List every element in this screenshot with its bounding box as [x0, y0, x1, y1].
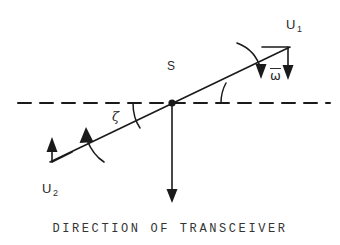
label-omega-bar: ω: [270, 68, 281, 83]
label-omega-glyph: ω: [270, 68, 281, 83]
label-u2-base: U: [42, 181, 52, 196]
label-center-point-s: S: [167, 60, 176, 72]
u2-velocity-arrow-head: [47, 137, 58, 152]
omega-rotation-arc-arrowhead: [256, 64, 267, 79]
label-u1: U1: [286, 18, 302, 34]
transceiver-direction-figure: U1 U2 S ζ ω DIRECTION OF TRANSCEIVER: [0, 0, 340, 245]
zeta-angle-arc: [133, 103, 140, 128]
omega-angle-arc-right: [221, 83, 226, 103]
label-zeta-angle: ζ: [112, 110, 119, 123]
downward-vertical-arrow-head: [167, 189, 178, 203]
label-u2-subscript: 2: [52, 188, 59, 198]
label-u1-subscript: 1: [296, 24, 303, 34]
figure-caption: DIRECTION OF TRANSCEIVER: [0, 222, 340, 236]
diagram-canvas: [0, 0, 340, 245]
u1-velocity-arrow-head: [283, 65, 294, 80]
label-u2: U2: [42, 182, 58, 198]
rotation-arc-left-arrowhead: [80, 127, 94, 143]
u2-arrow-connector: [52, 152, 72, 162]
label-u1-base: U: [286, 17, 296, 32]
